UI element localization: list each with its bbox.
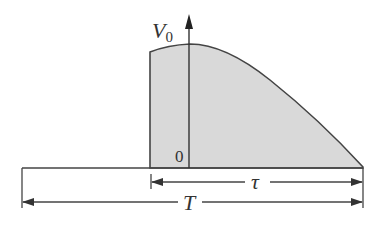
voltage-label: V0	[152, 18, 173, 45]
origin-label: 0	[175, 147, 184, 166]
period-label: T	[183, 190, 197, 215]
voltage-axis-arrow-icon	[185, 14, 193, 29]
tau-label: τ	[251, 169, 260, 194]
pulse-diagram: V0 0 τ T	[0, 0, 386, 229]
